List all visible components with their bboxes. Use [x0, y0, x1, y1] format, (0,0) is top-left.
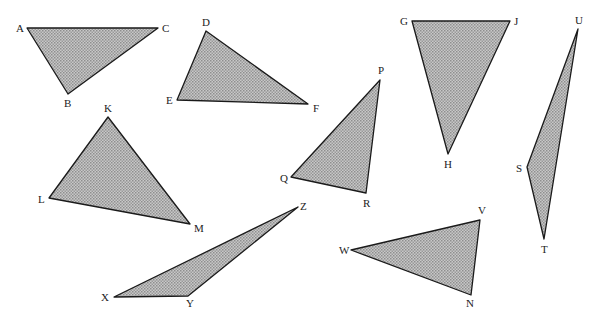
vertex-label-s: S	[516, 162, 522, 174]
triangle-stu	[527, 29, 578, 239]
vertex-label-e: E	[166, 94, 173, 106]
triangle-pqr	[291, 80, 380, 193]
vertex-label-x: X	[101, 291, 109, 303]
vertex-label-f: F	[313, 102, 319, 114]
vertex-label-c: C	[162, 22, 169, 34]
vertex-label-g: G	[400, 15, 408, 27]
triangle-abc	[27, 28, 158, 94]
triangle-figure: ACBDEFGJHUSTPQRKLMZXYVWN	[0, 0, 598, 321]
vertex-label-h: H	[444, 158, 452, 170]
triangle-vwn	[351, 220, 480, 295]
vertex-label-b: B	[64, 97, 71, 109]
triangle-xyz	[114, 207, 298, 297]
vertex-label-q: Q	[280, 172, 288, 184]
vertex-label-r: R	[363, 197, 371, 209]
vertex-label-a: A	[16, 22, 24, 34]
vertex-label-m: M	[194, 222, 204, 234]
vertex-label-l: L	[38, 193, 45, 205]
triangle-ghj	[412, 21, 510, 154]
vertex-label-w: W	[339, 244, 350, 256]
vertex-label-k: K	[104, 102, 112, 114]
vertex-label-y: Y	[186, 297, 194, 309]
vertex-label-d: D	[202, 16, 210, 28]
vertex-label-n: N	[466, 297, 474, 309]
vertex-label-p: P	[378, 64, 384, 76]
vertex-label-z: Z	[300, 200, 307, 212]
vertex-label-u: U	[575, 14, 583, 26]
triangles-group	[27, 21, 578, 297]
triangle-def	[177, 31, 308, 104]
vertex-label-j: J	[514, 15, 519, 27]
vertex-label-v: V	[478, 204, 486, 216]
vertex-label-t: T	[541, 243, 548, 255]
triangle-klm	[49, 117, 190, 224]
